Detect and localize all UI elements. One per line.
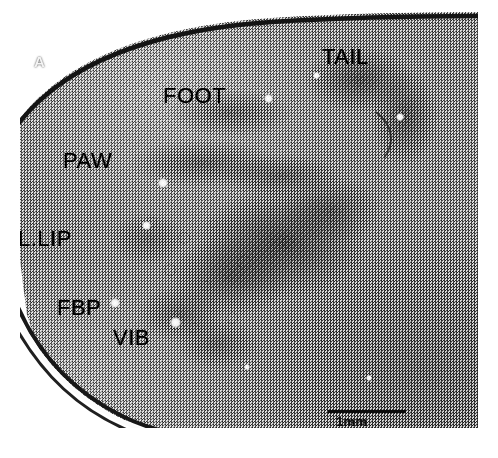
figure-root: A TAILFOOTPAWL.LIPFBPVIB 1mm [0, 0, 498, 458]
scale-bar: 1mm [320, 404, 420, 428]
label-foot: FOOT [163, 85, 226, 107]
panel-letter-a: A [34, 54, 45, 69]
label-vib: VIB [113, 327, 150, 349]
label-tail: TAIL [322, 46, 369, 68]
scale-bar-label: 1mm [336, 414, 367, 428]
micrograph-image: A TAILFOOTPAWL.LIPFBPVIB 1mm [20, 8, 478, 428]
label-paw: PAW [63, 150, 112, 172]
label-fbp: FBP [57, 297, 101, 319]
scale-bar-line [328, 410, 406, 413]
film-grain-layer-2 [20, 8, 478, 428]
label-l-lip: L.LIP [20, 228, 72, 250]
